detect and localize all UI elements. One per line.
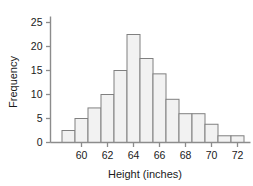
y-axis-title: Frequency [7, 56, 19, 108]
x-axis-tick-label: 60 [76, 149, 88, 161]
y-axis-tick-label: 10 [31, 88, 43, 100]
x-axis-tick-label: 64 [128, 149, 140, 161]
histogram-bar [179, 114, 192, 143]
histogram-chart: 0510152025 60626466687072 Height (inches… [0, 0, 253, 186]
histogram-bar [231, 136, 244, 143]
histogram-bar [88, 108, 101, 143]
x-axis-tick-label: 72 [232, 149, 244, 161]
x-axis-title: Height (inches) [108, 168, 182, 180]
y-axis: 0510152025 [31, 16, 51, 148]
histogram-bar [140, 59, 153, 143]
y-axis-tick-label: 25 [31, 16, 43, 28]
x-axis: 60626466687072 [51, 143, 251, 161]
histogram-bar [192, 114, 205, 143]
histogram-bar [114, 71, 127, 143]
histogram-bar [62, 131, 75, 143]
histogram-bar [166, 99, 179, 142]
y-axis-tick-label: 15 [31, 64, 43, 76]
y-axis-tick-label: 5 [37, 112, 43, 124]
y-axis-tick-label: 0 [37, 136, 43, 148]
x-axis-tick-label: 68 [180, 149, 192, 161]
histogram-bar [218, 136, 231, 143]
bars-group [62, 35, 244, 143]
x-axis-tick-label: 70 [206, 149, 218, 161]
x-axis-tick-label: 62 [102, 149, 114, 161]
histogram-bar [205, 124, 218, 142]
histogram-bar [127, 35, 140, 143]
histogram-bar [75, 119, 88, 143]
chart-canvas: 0510152025 60626466687072 Height (inches… [0, 0, 253, 186]
histogram-bar [153, 74, 166, 143]
y-axis-tick-label: 20 [31, 40, 43, 52]
histogram-bar [101, 95, 114, 143]
x-axis-tick-label: 66 [154, 149, 166, 161]
